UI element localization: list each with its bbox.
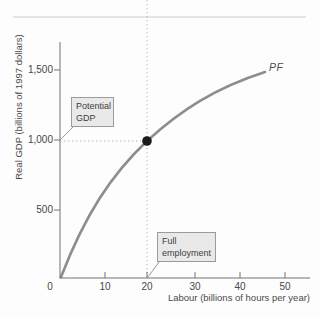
x-axis-title: Labour (billions of hours per year) <box>168 292 310 303</box>
potential-gdp-callout-line <box>60 127 73 140</box>
full-employment-point-marker <box>142 136 152 146</box>
production-function-figure: 1,500 1,000 500 0 10 20 30 40 50 Real GD… <box>0 0 319 318</box>
y-axis-title: Real GDP (billions of 1997 dollars) <box>13 34 24 180</box>
y-tick-label-500: 500 <box>13 204 53 216</box>
x-tick-label-0: 0 <box>35 281 65 293</box>
chart-canvas <box>0 0 319 318</box>
full-employment-label-box: Full employment <box>157 232 216 262</box>
x-tick-label-20: 20 <box>132 281 162 293</box>
potential-gdp-label-box: Potential GDP <box>71 97 114 127</box>
full-employment-callout-line <box>148 262 159 277</box>
x-tick-label-10: 10 <box>90 281 120 293</box>
pf-curve-label: PF <box>269 61 283 73</box>
